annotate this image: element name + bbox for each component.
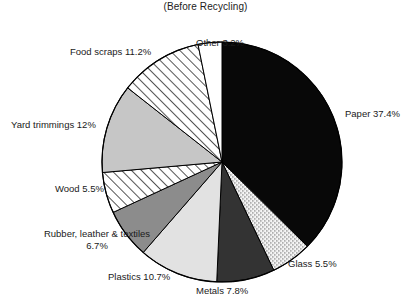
slice-label-wood-text: Wood 5.5%	[55, 183, 104, 194]
pie-chart-figure: (Before Recycling) Paper 37.4% Glass 5.5…	[0, 0, 411, 301]
slice-label-plastics: Plastics 10.7%	[108, 271, 170, 283]
slice-label-metals-text: Metals 7.8%	[196, 285, 248, 296]
slice-label-paper-text: Paper 37.4%	[345, 108, 400, 119]
slice-label-other-text: Other 3.2%	[196, 37, 244, 48]
slice-label-plastics-text: Plastics 10.7%	[108, 271, 170, 282]
slice-label-glass-text: Glass 5.5%	[288, 258, 337, 269]
slice-label-rubber-leather-textiles-text: Rubber, leather & textiles	[44, 228, 150, 239]
slice-label-yard-trimmings: Yard trimmings 12%	[11, 119, 96, 131]
slice-label-other: Other 3.2%	[196, 37, 244, 49]
slice-label-rubber-leather-textiles-value: 6.7%	[86, 240, 108, 251]
slice-label-food-scraps: Food scraps 11.2%	[70, 46, 151, 58]
slice-label-food-scraps-text: Food scraps 11.2%	[70, 46, 151, 57]
slice-label-glass: Glass 5.5%	[288, 258, 337, 270]
slice-label-rubber-leather-textiles: Rubber, leather & textiles 6.7%	[17, 228, 177, 251]
slice-label-metals: Metals 7.8%	[196, 285, 248, 297]
slice-label-yard-trimmings-text: Yard trimmings 12%	[11, 119, 96, 130]
slice-label-wood: Wood 5.5%	[55, 183, 104, 195]
slice-label-paper: Paper 37.4%	[345, 108, 400, 120]
